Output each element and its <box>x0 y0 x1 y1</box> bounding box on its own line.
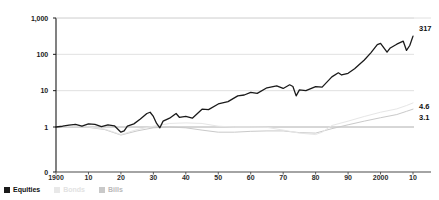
legend-item-bills[interactable]: Bills <box>99 186 123 193</box>
legend-item-bonds[interactable]: Bonds <box>54 186 85 193</box>
bills-end-value: 3.1 <box>419 114 429 122</box>
x-tick-label-50: 50 <box>214 174 222 181</box>
x-tick-label-10: 10 <box>409 174 417 181</box>
legend-swatch-bonds <box>54 187 60 193</box>
legend-label-equities: Equities <box>13 186 40 193</box>
plot-svg <box>0 0 439 200</box>
x-tick-label-40: 40 <box>182 174 190 181</box>
x-tick-label-1900: 1900 <box>48 174 64 181</box>
legend-label-bonds: Bonds <box>63 186 85 193</box>
x-tick-label-20: 20 <box>117 174 125 181</box>
x-tick-label-2000: 2000 <box>373 174 389 181</box>
legend-item-equities[interactable]: Equities <box>4 186 40 193</box>
series-line-bonds <box>56 103 413 135</box>
chart-legend: Equities Bonds Bills <box>4 186 123 193</box>
chart-container: 1,0001001010 317 4.6 3.1 Equities Bonds … <box>0 0 439 200</box>
legend-swatch-bills <box>99 187 105 193</box>
equities-end-value: 317 <box>419 25 432 33</box>
x-tick-label-70: 70 <box>279 174 287 181</box>
x-tick-label-90: 90 <box>344 174 352 181</box>
x-tick-label-80: 80 <box>312 174 320 181</box>
x-tick-label-30: 30 <box>149 174 157 181</box>
x-tick-label-60: 60 <box>247 174 255 181</box>
x-tick-label-10: 10 <box>85 174 93 181</box>
legend-label-bills: Bills <box>108 186 123 193</box>
legend-swatch-equities <box>4 187 10 193</box>
bonds-end-value: 4.6 <box>419 103 429 111</box>
